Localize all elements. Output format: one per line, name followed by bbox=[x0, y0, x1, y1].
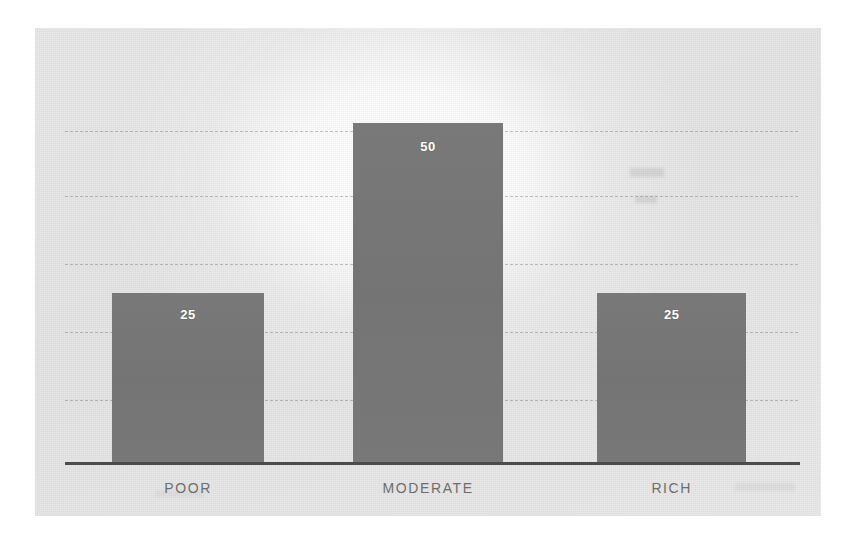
bar-value-moderate: 50 bbox=[353, 139, 503, 154]
bar-value-rich: 25 bbox=[597, 307, 746, 322]
x-axis-label-moderate: MODERATE bbox=[353, 480, 503, 496]
x-axis-line bbox=[65, 462, 800, 465]
x-axis-labels: POOR MODERATE RICH bbox=[65, 480, 800, 506]
x-axis-label-poor: POOR bbox=[112, 480, 264, 496]
plot-area: 25 50 25 bbox=[65, 33, 800, 465]
bar-group-moderate[interactable]: 50 bbox=[353, 123, 503, 462]
bars-layer: 25 50 25 bbox=[65, 33, 800, 465]
bar-moderate[interactable] bbox=[353, 123, 503, 462]
chart-panel: 25 50 25 POOR MODERATE RICH bbox=[35, 28, 821, 516]
bar-group-poor[interactable]: 25 bbox=[112, 293, 264, 462]
bar-value-poor: 25 bbox=[112, 307, 264, 322]
x-axis-label-rich: RICH bbox=[597, 480, 746, 496]
bar-group-rich[interactable]: 25 bbox=[597, 293, 746, 462]
scanned-page: 25 50 25 POOR MODERATE RICH bbox=[0, 0, 858, 541]
